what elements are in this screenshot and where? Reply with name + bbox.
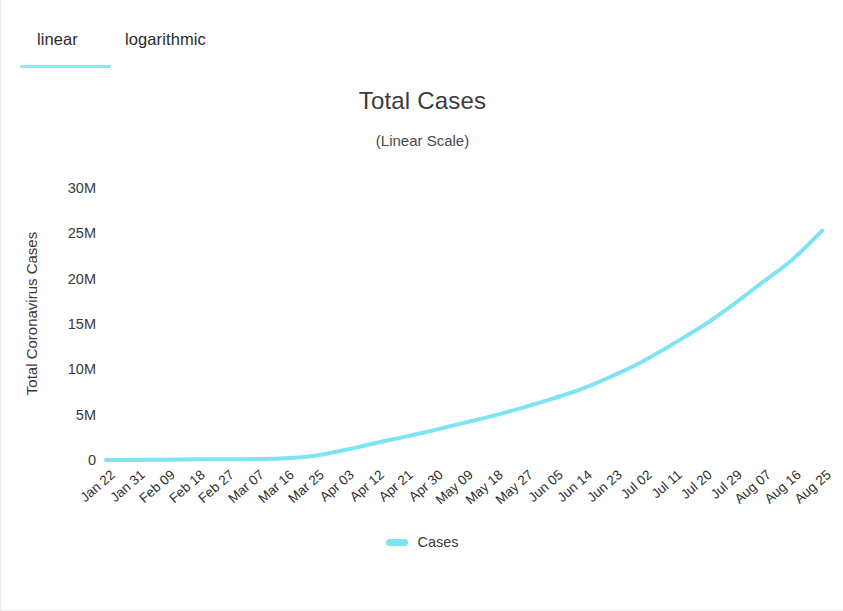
legend-label-cases: Cases <box>417 534 458 550</box>
chart-legend: Cases <box>1 534 843 550</box>
legend-item-cases[interactable]: Cases <box>386 534 458 550</box>
chart-page: linear logarithmic Total Cases (Linear S… <box>0 0 843 611</box>
x-axis-ticks: Jan 22Jan 31Feb 09Feb 18Feb 27Mar 07Mar … <box>1 0 843 611</box>
legend-swatch-icon <box>386 539 408 546</box>
